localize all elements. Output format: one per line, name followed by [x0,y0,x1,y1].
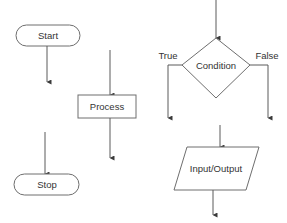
stop-node: Stop [14,174,79,195]
false-branch-arrow [250,65,268,118]
true-branch-arrow [168,65,182,118]
stop-label: Stop [37,179,57,190]
io-node: Input/Output [174,147,259,190]
true-branch-label: True [158,50,177,61]
condition-label: Condition [196,60,236,71]
process-node: Process [78,95,136,118]
start-node: Start [16,25,80,46]
process-label: Process [90,101,125,112]
flowchart-canvas: Start Process Stop Condition True False … [0,0,287,223]
io-label: Input/Output [190,163,243,174]
start-label: Start [38,30,58,41]
false-branch-label: False [255,50,278,61]
condition-node: Condition [182,38,250,98]
